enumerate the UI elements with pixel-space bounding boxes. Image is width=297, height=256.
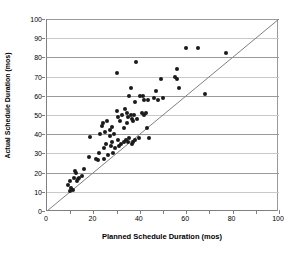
data-point	[118, 119, 122, 123]
data-point	[110, 140, 114, 144]
data-point	[102, 146, 106, 150]
x-tick-mark-80	[233, 210, 234, 214]
y-tick-mark-0	[42, 211, 45, 212]
x-tick-mark-100	[279, 210, 280, 214]
y-tick-label-100: 100	[14, 16, 42, 23]
data-point	[154, 89, 158, 93]
x-tick-mark-90	[256, 210, 257, 214]
data-point	[159, 77, 163, 81]
data-point	[152, 96, 156, 100]
y-tick-label-40: 40	[14, 131, 42, 138]
x-tick-mark-60	[186, 210, 187, 214]
data-point	[203, 92, 207, 96]
x-tick-label-40: 40	[135, 215, 143, 222]
y-tick-label-50: 50	[14, 112, 42, 119]
x-tick-label-20: 20	[88, 215, 96, 222]
y-tick-mark-10	[42, 192, 45, 193]
y-tick-label-80: 80	[14, 54, 42, 61]
x-axis-title: Planned Schedule Duration (mos)	[46, 232, 278, 241]
y-tick-mark-30	[42, 153, 45, 154]
y-tick-label-60: 60	[14, 92, 42, 99]
x-tick-label-100: 100	[272, 215, 284, 222]
y-tick-mark-40	[42, 134, 45, 135]
data-point	[144, 111, 148, 115]
data-point	[88, 135, 92, 139]
reference-line-parity	[47, 19, 279, 211]
data-point	[115, 71, 119, 75]
data-point	[224, 51, 228, 55]
y-tick-mark-70	[42, 77, 45, 78]
data-point	[175, 77, 179, 81]
y-tick-mark-100	[42, 19, 45, 20]
data-point	[133, 100, 137, 104]
data-point	[104, 142, 108, 146]
y-tick-label-0: 0	[14, 208, 42, 215]
data-point	[131, 119, 135, 123]
x-tick-label-80: 80	[228, 215, 236, 222]
x-tick-label-0: 0	[44, 215, 48, 222]
data-point	[115, 109, 119, 113]
y-tick-label-30: 30	[14, 150, 42, 157]
y-axis-tick-labels: 0102030405060708090100	[14, 19, 42, 211]
x-tick-label-60: 60	[181, 215, 189, 222]
plot-area	[46, 19, 278, 211]
data-point	[71, 188, 75, 192]
x-axis-tick-labels: 020406080100	[46, 215, 278, 227]
y-tick-label-10: 10	[14, 188, 42, 195]
y-tick-mark-20	[42, 173, 45, 174]
x-tick-mark-50	[163, 210, 164, 214]
data-point	[175, 67, 179, 71]
x-tick-mark-20	[93, 210, 94, 214]
data-point	[74, 171, 78, 175]
data-point	[146, 98, 150, 102]
data-point	[82, 167, 86, 171]
y-axis-title-label: Actual Schedule Duration (mos)	[4, 52, 11, 158]
data-point	[184, 46, 188, 50]
y-tick-mark-60	[42, 96, 45, 97]
y-tick-mark-80	[42, 57, 45, 58]
data-point	[109, 144, 113, 148]
data-point	[129, 86, 133, 90]
data-point	[161, 96, 165, 100]
y-tick-mark-50	[42, 115, 45, 116]
data-point	[137, 136, 141, 140]
data-point	[102, 157, 106, 161]
data-point	[110, 125, 114, 129]
data-point	[87, 155, 91, 159]
y-axis-title: Actual Schedule Duration (mos)	[0, 0, 14, 211]
y-tick-label-70: 70	[14, 73, 42, 80]
data-point	[101, 121, 105, 125]
y-tick-label-90: 90	[14, 35, 42, 42]
scatter-chart: Actual Schedule Duration (mos) 010203040…	[0, 0, 297, 256]
x-tick-mark-30	[117, 210, 118, 214]
x-tick-mark-70	[209, 210, 210, 214]
x-tick-mark-10	[70, 210, 71, 214]
y-tick-mark-90	[42, 38, 45, 39]
data-point	[125, 121, 129, 125]
data-point	[196, 46, 200, 50]
y-tick-label-20: 20	[14, 169, 42, 176]
data-point	[108, 134, 112, 138]
x-tick-mark-40	[140, 210, 141, 214]
